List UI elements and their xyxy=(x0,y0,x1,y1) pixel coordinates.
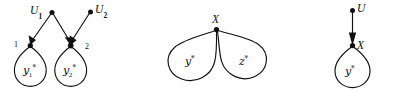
label-loop-y-right-star: * xyxy=(351,64,355,73)
label-loop-y-middle-star: * xyxy=(191,54,195,63)
label-node1-index: 1 xyxy=(14,41,18,49)
label-x-middle-text: X xyxy=(212,13,219,25)
label-u-right-text: U xyxy=(357,2,365,14)
label-u1-subscript: 1 xyxy=(39,12,43,21)
figure-root: U1 U2 1 2 y1* y2* X y* z* U X y* xyxy=(0,0,393,91)
edge-u2-to-node2 xyxy=(73,14,89,39)
label-u1-text: U xyxy=(30,4,38,16)
label-u-right: U xyxy=(357,3,365,15)
label-x-right: X xyxy=(357,40,364,52)
edge-u1-to-node2 xyxy=(54,15,70,41)
label-x-middle: X xyxy=(212,14,219,26)
label-loop-y1-star: * xyxy=(32,63,36,72)
label-loop-y-middle: y* xyxy=(185,56,195,67)
label-u2-text: U xyxy=(95,3,103,15)
label-loop-y1: y1* xyxy=(23,65,37,76)
label-u2-subscript: 2 xyxy=(104,11,108,20)
label-x-right-text: X xyxy=(357,39,364,51)
label-loop-y2: y2* xyxy=(63,65,77,76)
label-loop-y2-star: * xyxy=(72,63,76,72)
label-node2-index-text: 2 xyxy=(85,42,89,51)
diagram-canvas xyxy=(0,0,393,91)
label-u2: U2 xyxy=(95,4,107,18)
label-loop-z-middle: z* xyxy=(239,56,249,67)
panel-middle xyxy=(168,27,266,81)
label-loop-y-right: y* xyxy=(345,66,355,77)
label-node1-index-text: 1 xyxy=(14,40,18,49)
label-loop-z-middle-star: * xyxy=(244,54,248,63)
label-u1: U1 xyxy=(30,5,42,19)
label-node2-index: 2 xyxy=(85,43,89,51)
